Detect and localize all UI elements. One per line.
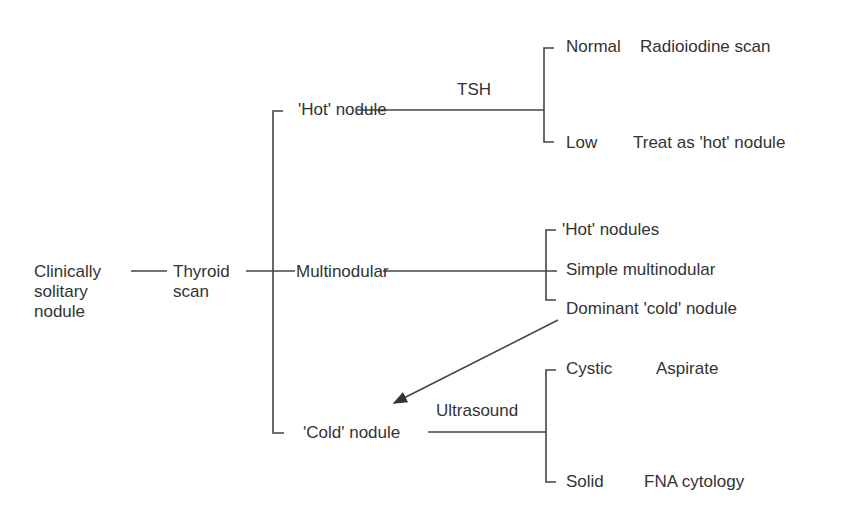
solid-outcome: Solid bbox=[566, 472, 604, 492]
hot-nodule-node: 'Hot' nodule bbox=[298, 100, 387, 120]
dominant-cold-outcome: Dominant 'cold' nodule bbox=[566, 299, 737, 319]
multinodular-node: Multinodular bbox=[296, 262, 389, 282]
low-outcome: Low bbox=[566, 133, 597, 153]
normal-outcome: Normal bbox=[566, 37, 621, 57]
connector-lines bbox=[0, 0, 847, 505]
thyroid-nodule-flowchart: Clinically solitary nodule Thyroid scan … bbox=[0, 0, 847, 505]
scan-line-1: Thyroid bbox=[173, 262, 230, 282]
simple-multinodular-outcome: Simple multinodular bbox=[566, 260, 715, 280]
root-line-1: Clinically bbox=[34, 262, 101, 282]
tsh-test-label: TSH bbox=[457, 80, 491, 100]
fna-cytology-action: FNA cytology bbox=[644, 472, 744, 492]
root-node: Clinically solitary nodule bbox=[34, 262, 101, 322]
aspirate-action: Aspirate bbox=[656, 359, 718, 379]
hot-nodules-outcome: 'Hot' nodules bbox=[562, 220, 659, 240]
root-line-2: solitary bbox=[34, 282, 101, 302]
root-line-3: nodule bbox=[34, 302, 101, 322]
cold-nodule-node: 'Cold' nodule bbox=[303, 423, 400, 443]
treat-hot-action: Treat as 'hot' nodule bbox=[633, 133, 785, 153]
thyroid-scan-node: Thyroid scan bbox=[173, 262, 230, 302]
ultrasound-test-label: Ultrasound bbox=[436, 401, 518, 421]
radioiodine-action: Radioiodine scan bbox=[640, 37, 770, 57]
scan-line-2: scan bbox=[173, 282, 230, 302]
cystic-outcome: Cystic bbox=[566, 359, 612, 379]
